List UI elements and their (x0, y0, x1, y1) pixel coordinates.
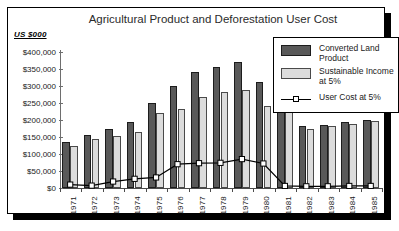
bar-sustainable-income (135, 132, 143, 188)
bar-converted-land-product (299, 126, 307, 188)
x-axis-label: 1978 (219, 196, 228, 215)
x-axis-tick (275, 188, 276, 192)
bar-converted-land-product (277, 110, 285, 188)
bar-converted-land-product (127, 122, 135, 188)
y-axis-tick (59, 103, 63, 104)
bar-converted-land-product (148, 103, 156, 188)
x-axis-tick (103, 188, 104, 192)
x-axis-label: 1985 (370, 196, 379, 215)
x-axis-label: 1972 (90, 196, 99, 215)
x-axis-label: 1973 (112, 196, 121, 215)
y-axis-tick-label: $50,000 (27, 167, 56, 176)
y-axis-tick (59, 120, 63, 121)
bar-sustainable-income (264, 106, 272, 188)
x-axis-tick (318, 188, 319, 192)
y-axis-tick-label: $350,000 (23, 65, 56, 74)
y-axis-tick-label: $200,000 (23, 116, 56, 125)
y-axis-tick-label: $0 (47, 184, 56, 193)
x-axis-tick (81, 188, 82, 192)
x-axis-tick (232, 188, 233, 192)
x-axis-label: 1983 (327, 196, 336, 215)
x-axis-tick (124, 188, 125, 192)
x-axis-tick (296, 188, 297, 192)
y-axis-tick (59, 69, 63, 70)
y-axis-tick (59, 137, 63, 138)
y-axis-tick-label: $300,000 (23, 82, 56, 91)
y-axis-tick (59, 86, 63, 87)
bar-sustainable-income (242, 90, 250, 188)
legend-item-sustainable-income: Sustainable Income at 5% (281, 67, 398, 86)
line-marker-swatch-icon (281, 94, 311, 105)
bar-converted-land-product (62, 142, 70, 188)
x-axis-label: 1979 (241, 196, 250, 215)
y-axis-unit-label: US $000 (14, 30, 47, 39)
bar-converted-land-product (256, 82, 264, 188)
chart-legend: Converted Land Product Sustainable Incom… (273, 37, 399, 113)
x-axis-tick (382, 188, 383, 192)
y-axis-tick-label: $400,000 (23, 48, 56, 57)
x-axis-label: 1975 (155, 196, 164, 215)
x-axis-label: 1977 (198, 196, 207, 215)
bar-converted-land-product (105, 129, 113, 189)
bar-sustainable-income (113, 136, 121, 188)
dark-bar-swatch-icon (281, 45, 311, 56)
x-axis-tick (146, 188, 147, 192)
bar-converted-land-product (341, 122, 349, 188)
bar-converted-land-product (234, 62, 242, 188)
chart-title: Agricultural Product and Deforestation U… (63, 13, 363, 25)
x-axis-label: 1982 (305, 196, 314, 215)
y-axis-tick (59, 52, 63, 53)
x-axis-tick (167, 188, 168, 192)
legend-label: Converted Land Product (319, 44, 398, 63)
bar-converted-land-product (170, 86, 178, 188)
x-axis-label: 1980 (262, 196, 271, 215)
bar-converted-land-product (320, 125, 328, 188)
x-axis-label: 1976 (176, 196, 185, 215)
x-axis-label: 1984 (348, 196, 357, 215)
bar-sustainable-income (221, 92, 229, 188)
x-axis-label: 1974 (133, 196, 142, 215)
legend-label: User Cost at 5% (319, 93, 381, 103)
x-axis-tick (253, 188, 254, 192)
light-bar-swatch-icon (281, 68, 311, 79)
bar-sustainable-income (70, 146, 78, 188)
legend-label: Sustainable Income at 5% (319, 67, 398, 86)
bar-sustainable-income (371, 121, 379, 188)
x-axis-label: 1971 (69, 196, 78, 215)
x-axis-label: 1981 (284, 196, 293, 215)
y-axis-tick-label: $250,000 (23, 99, 56, 108)
legend-item-user-cost: User Cost at 5% (281, 93, 381, 105)
x-axis-tick (60, 188, 61, 192)
x-axis-line (60, 188, 382, 189)
x-axis-tick (189, 188, 190, 192)
legend-item-converted-land-product: Converted Land Product (281, 44, 398, 63)
bar-sustainable-income (92, 139, 100, 188)
bar-sustainable-income (199, 97, 207, 188)
x-axis-tick (339, 188, 340, 192)
bar-sustainable-income (349, 124, 357, 188)
x-axis-tick (210, 188, 211, 192)
y-axis-tick-label: $100,000 (23, 150, 56, 159)
bar-converted-land-product (191, 72, 199, 188)
bar-sustainable-income (285, 110, 293, 188)
bar-sustainable-income (178, 109, 186, 188)
bar-sustainable-income (328, 126, 336, 188)
y-axis-tick-label: $150,000 (23, 133, 56, 142)
bar-converted-land-product (363, 120, 371, 188)
x-axis-tick (361, 188, 362, 192)
bar-converted-land-product (213, 67, 221, 188)
bar-sustainable-income (307, 129, 315, 188)
bar-sustainable-income (156, 113, 164, 188)
bar-converted-land-product (84, 135, 92, 188)
chart-frame: Agricultural Product and Deforestation U… (7, 7, 385, 214)
